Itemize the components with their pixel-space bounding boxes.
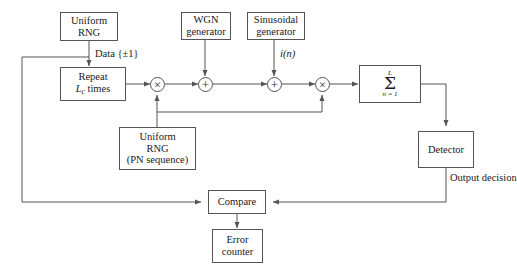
- repeat-times: times: [85, 83, 110, 94]
- sinusoidal-line2: generator: [256, 26, 296, 38]
- repeat-line2: Lc times: [76, 83, 111, 96]
- wire-detector-to-compare: [273, 168, 446, 202]
- multiplier-2-symbol: ×: [319, 78, 326, 91]
- label-interference: i(n): [280, 48, 295, 60]
- adder-2[interactable]: +: [267, 77, 282, 92]
- summation-lower-limit: n = 1: [382, 91, 397, 98]
- label-data: Data {±1}: [95, 48, 139, 60]
- wgn-line1: WGN: [193, 14, 218, 26]
- output-decision-line1: Output: [450, 172, 479, 183]
- multiplier-1-symbol: ×: [154, 78, 161, 91]
- label-output-decision: Output decision: [450, 172, 517, 184]
- error-counter-line2: counter: [222, 246, 254, 258]
- adder-2-symbol: +: [271, 78, 278, 91]
- block-error-counter[interactable]: Error counter: [212, 229, 263, 263]
- pn-rng-line3: (PN sequence): [127, 154, 189, 166]
- summation-expression: L Σ n = 1: [382, 70, 397, 98]
- output-decision-line2: decision: [482, 172, 517, 183]
- wgn-line2: generator: [186, 26, 226, 38]
- block-pn-uniform-rng[interactable]: Uniform RNG (PN sequence): [119, 127, 196, 170]
- multiplier-1[interactable]: ×: [150, 77, 165, 92]
- wire-sum-to-detector: [421, 84, 446, 126]
- block-compare[interactable]: Compare: [208, 190, 266, 214]
- pn-rng-line1: Uniform: [139, 131, 175, 143]
- block-uniform-rng[interactable]: Uniform RNG: [60, 12, 118, 41]
- adder-1-symbol: +: [202, 78, 209, 91]
- block-sinusoidal-generator[interactable]: Sinusoidal generator: [247, 12, 305, 40]
- block-wgn-generator[interactable]: WGN generator: [181, 12, 231, 40]
- uniform-rng-line1: Uniform: [71, 15, 107, 27]
- adder-1[interactable]: +: [198, 77, 213, 92]
- error-counter-line1: Error: [226, 234, 248, 246]
- block-repeat[interactable]: Repeat Lc times: [60, 67, 126, 101]
- detector-label: Detector: [428, 144, 464, 156]
- pn-rng-line2: RNG: [146, 143, 168, 155]
- sinusoidal-line1: Sinusoidal: [254, 14, 298, 26]
- block-summation[interactable]: L Σ n = 1: [359, 65, 421, 103]
- compare-label: Compare: [218, 196, 257, 208]
- wire-pn-to-mult2: [157, 95, 322, 127]
- block-detector[interactable]: Detector: [418, 131, 474, 168]
- multiplier-2[interactable]: ×: [315, 77, 330, 92]
- uniform-rng-line2: RNG: [78, 27, 100, 39]
- repeat-line1: Repeat: [78, 71, 107, 83]
